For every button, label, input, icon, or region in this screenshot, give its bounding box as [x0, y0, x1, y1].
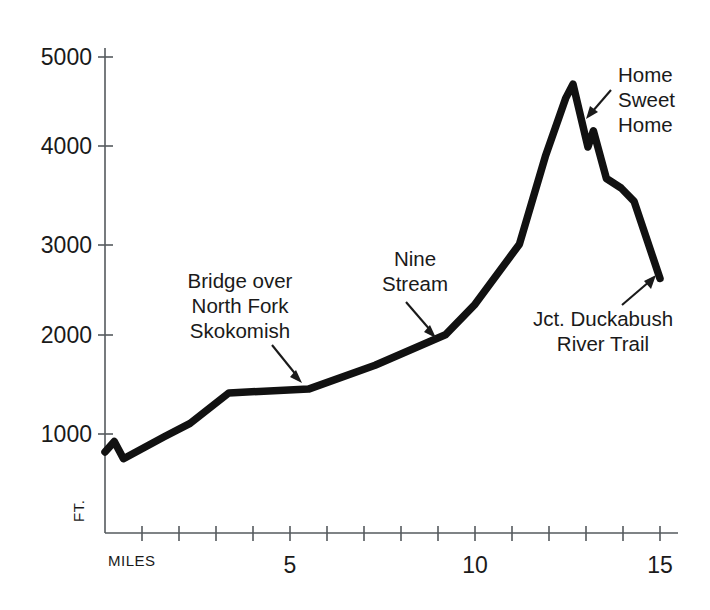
x-label-10: 10: [462, 552, 488, 578]
annotation-bridge: Bridge over North Fork Skokomish: [188, 269, 302, 383]
annotation-duckabush-arrow-line: [622, 281, 650, 305]
annotation-bridge-arrow-head: [290, 370, 302, 383]
annotation-duckabush-line-1: Jct. Duckabush: [533, 307, 673, 330]
y-label-1000: 1000: [41, 421, 92, 447]
annotation-home-line-1: Home: [618, 63, 673, 86]
annotation-nine-stream-line-2: Stream: [382, 272, 448, 295]
annotation-duckabush-arrow-head: [644, 275, 656, 289]
x-axis-unit-label: MILES: [108, 552, 156, 569]
annotation-bridge-line-1: Bridge over: [188, 269, 293, 292]
annotation-nine-stream-line-1: Nine: [394, 247, 436, 270]
y-label-5000: 5000: [41, 44, 92, 70]
y-label-3000: 3000: [41, 232, 92, 258]
y-label-4000: 4000: [41, 133, 92, 159]
annotation-nine-stream-arrow-line: [406, 302, 431, 331]
annotation-home-arrow-line: [592, 90, 611, 112]
annotation-duckabush: Jct. Duckabush River Trail: [533, 275, 673, 355]
annotation-home-line-3: Home: [618, 113, 673, 136]
annotation-bridge-line-3: Skokomish: [190, 319, 290, 342]
annotation-nine-stream: Nine Stream: [382, 247, 448, 338]
elevation-profile-chart: 5000 4000 3000 2000 1000 5: [0, 0, 710, 610]
annotation-duckabush-line-2: River Trail: [557, 332, 649, 355]
annotation-bridge-line-2: North Fork: [192, 294, 290, 317]
x-label-15: 15: [647, 552, 673, 578]
annotation-bridge-arrow-line: [272, 345, 297, 376]
y-axis-unit-label: FT.: [70, 500, 87, 522]
y-tick-labels: 5000 4000 3000 2000 1000: [41, 44, 92, 447]
annotation-home-sweet-home: Home Sweet Home: [586, 63, 675, 136]
y-label-2000: 2000: [41, 322, 92, 348]
chart-canvas: 5000 4000 3000 2000 1000 5: [0, 0, 710, 610]
x-label-5: 5: [284, 552, 297, 578]
annotation-home-line-2: Sweet: [618, 88, 675, 111]
x-tick-labels: 5 10 15: [284, 552, 673, 578]
annotation-nine-stream-arrow-head: [424, 325, 436, 338]
